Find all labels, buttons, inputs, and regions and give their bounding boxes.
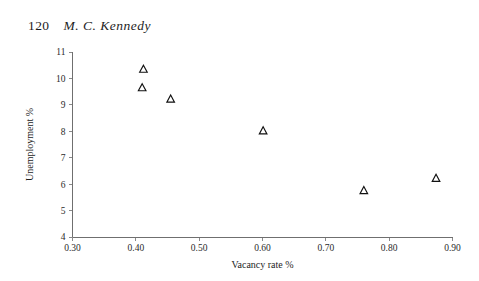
- x-tick-label: 0.90: [444, 243, 461, 253]
- data-point-marker: [259, 127, 267, 134]
- data-markers: [138, 65, 439, 193]
- x-tick-label: 0.40: [128, 243, 145, 253]
- data-point-marker: [432, 174, 440, 181]
- y-tick-label: 8: [61, 127, 66, 137]
- data-point-marker: [138, 84, 146, 91]
- scatter-plot-figure: 4567891011 0.300.400.500.600.700.800.90 …: [0, 0, 479, 281]
- y-tick-label: 11: [56, 47, 65, 57]
- y-tick-label: 10: [56, 74, 66, 84]
- x-tick-label: 0.60: [254, 243, 271, 253]
- data-point-marker: [167, 95, 175, 102]
- data-point-marker: [140, 65, 148, 72]
- x-tick-label: 0.30: [64, 243, 81, 253]
- y-tick-label: 4: [61, 232, 66, 242]
- y-tick-label: 7: [61, 153, 66, 163]
- y-axis-ticks: 4567891011: [56, 47, 73, 242]
- x-axis-ticks: 0.300.400.500.600.700.800.90: [64, 237, 461, 253]
- x-axis-title: Vacancy rate %: [231, 259, 293, 270]
- plot-canvas: 4567891011 0.300.400.500.600.700.800.90 …: [0, 0, 479, 281]
- data-point-marker: [360, 186, 368, 193]
- x-tick-label: 0.80: [381, 243, 398, 253]
- x-tick-label: 0.70: [318, 243, 335, 253]
- y-tick-label: 9: [61, 100, 66, 110]
- y-tick-label: 5: [61, 206, 66, 216]
- x-tick-label: 0.50: [191, 243, 208, 253]
- y-tick-label: 6: [61, 180, 66, 190]
- y-axis-title: Unemployment %: [24, 108, 35, 181]
